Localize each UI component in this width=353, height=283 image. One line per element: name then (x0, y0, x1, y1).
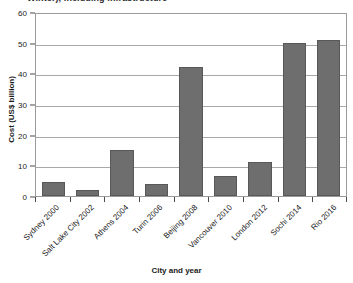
bar-slot (105, 14, 139, 196)
x-tick-label: Athens 2004 (92, 203, 130, 241)
bar-slot (70, 14, 104, 196)
x-tick-mark (243, 197, 244, 202)
x-tick-cell (35, 197, 70, 202)
x-tick-label: Beijing 2008 (162, 203, 200, 241)
bar[interactable] (214, 176, 237, 196)
bar[interactable] (42, 182, 65, 196)
plot-area (35, 13, 347, 197)
x-tick-mark (70, 197, 71, 202)
x-tick-label: London 2012 (229, 203, 268, 242)
y-tick-label: 10 (18, 162, 27, 171)
x-tick-cell (278, 197, 313, 202)
y-axis: 0102030405060 (0, 0, 35, 210)
y-tick-label: 0 (23, 193, 27, 202)
bar[interactable] (110, 150, 133, 196)
x-tick-mark (312, 197, 313, 202)
y-tick-label: 60 (18, 9, 27, 18)
bar[interactable] (283, 43, 306, 196)
bar[interactable] (317, 40, 340, 196)
y-tick-label: 20 (18, 131, 27, 140)
bar[interactable] (76, 190, 99, 196)
x-tick-mark (174, 197, 175, 202)
x-tick-label: Rio 2016 (309, 203, 338, 232)
x-tick-label: Turin 2006 (131, 203, 164, 236)
x-axis-title: City and year (0, 266, 353, 275)
y-tick-label: 40 (18, 70, 27, 79)
bar[interactable] (179, 67, 202, 196)
x-tick-mark (139, 197, 140, 202)
x-tick-cell (208, 197, 243, 202)
x-tick-cell (139, 197, 174, 202)
chart-title: Winter), including infrastructure (27, 0, 167, 3)
bar-slot (312, 14, 346, 196)
x-tick-cell (243, 197, 278, 202)
bar-slot (277, 14, 311, 196)
x-tick-mark (35, 197, 36, 202)
x-axis-labels: Sydney 2000Salt Lake City 2002Athens 200… (35, 203, 347, 261)
bar-slot (36, 14, 70, 196)
bar-slot (243, 14, 277, 196)
x-tick-cell (174, 197, 209, 202)
x-tick-cell (104, 197, 139, 202)
x-tick-cell (312, 197, 347, 202)
bar-slot (174, 14, 208, 196)
x-tick-cell (70, 197, 105, 202)
x-tick-mark (208, 197, 209, 202)
x-tick-mark-end (346, 197, 347, 202)
y-tick-label: 50 (18, 39, 27, 48)
x-axis-ticks (35, 197, 347, 202)
bar[interactable] (145, 184, 168, 196)
bar-slot (208, 14, 242, 196)
bar-series (36, 14, 346, 196)
y-tick-label: 30 (18, 101, 27, 110)
bar[interactable] (248, 162, 271, 196)
x-tick-mark (104, 197, 105, 202)
bar-slot (139, 14, 173, 196)
x-tick-label: Sochi 2014 (269, 203, 304, 238)
y-axis-title: Cost (US$ billion) (7, 45, 16, 175)
x-tick-mark (278, 197, 279, 202)
